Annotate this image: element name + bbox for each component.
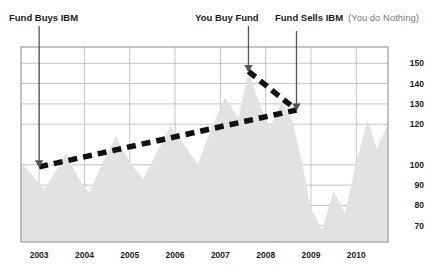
x-tick-2003: 2003 (30, 250, 49, 260)
annotation-label-you-buy-fund: You Buy Fund (195, 12, 259, 23)
y-tick-70: 70 (415, 221, 425, 231)
y-tick-80: 80 (415, 200, 425, 210)
y-axis-tick-labels: 150140130120100908070 (410, 58, 424, 231)
y-tick-90: 90 (415, 180, 425, 190)
y-tick-150: 150 (410, 58, 424, 68)
x-tick-2006: 2006 (166, 250, 185, 260)
stock-area-chart: Fund Buys IBM You Buy Fund Fund Sells IB… (0, 0, 443, 274)
x-tick-2005: 2005 (120, 250, 139, 260)
y-tick-100: 100 (410, 160, 424, 170)
x-axis-tick-labels: 20032004200520062007200820092010 (30, 250, 366, 260)
y-tick-120: 120 (410, 119, 424, 129)
x-tick-2009: 2009 (302, 250, 321, 260)
y-tick-140: 140 (410, 79, 424, 89)
annotation-sublabel-you-do-nothing: (You do Nothing) (348, 12, 419, 23)
chart-container: Fund Buys IBM You Buy Fund Fund Sells IB… (0, 0, 443, 274)
x-tick-2007: 2007 (211, 250, 230, 260)
y-tick-130: 130 (410, 99, 424, 109)
x-tick-2004: 2004 (75, 250, 94, 260)
annotation-label-fund-sells-ibm: Fund Sells IBM (275, 12, 343, 23)
x-tick-2010: 2010 (347, 250, 366, 260)
annotation-label-fund-buys-ibm: Fund Buys IBM (9, 12, 78, 23)
x-tick-2008: 2008 (256, 250, 275, 260)
